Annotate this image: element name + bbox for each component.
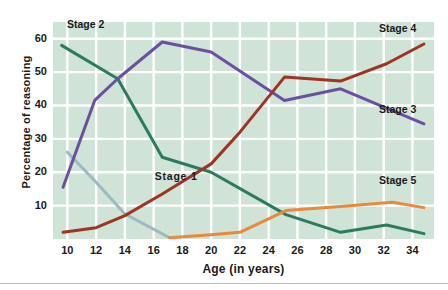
x-tick-label: 28 bbox=[314, 244, 338, 256]
x-tick-label: 24 bbox=[257, 244, 281, 256]
series-label-stage-4: Stage 4 bbox=[379, 22, 416, 34]
x-tick-label: 18 bbox=[170, 244, 194, 256]
series-label-stage-1: Stage 1 bbox=[155, 170, 198, 182]
x-tick-label: 22 bbox=[228, 244, 252, 256]
y-tick-label: 20 bbox=[25, 165, 47, 177]
y-tick-label: 10 bbox=[25, 199, 47, 211]
x-tick-label: 10 bbox=[55, 244, 79, 256]
series-label-stage-2: Stage 2 bbox=[67, 18, 104, 30]
y-tick-label: 50 bbox=[25, 65, 47, 77]
x-tick-label: 32 bbox=[372, 244, 396, 256]
series-label-stage-3: Stage 3 bbox=[379, 103, 416, 115]
x-tick-label: 16 bbox=[142, 244, 166, 256]
y-axis-title: Percentage of reasoning bbox=[20, 22, 32, 222]
x-tick-label: 14 bbox=[113, 244, 137, 256]
x-tick-label: 34 bbox=[400, 244, 424, 256]
x-tick-label: 30 bbox=[343, 244, 367, 256]
x-tick-label: 26 bbox=[285, 244, 309, 256]
x-tick-label: 12 bbox=[84, 244, 108, 256]
y-tick-label: 30 bbox=[25, 132, 47, 144]
x-tick-label: 20 bbox=[199, 244, 223, 256]
y-tick-label: 60 bbox=[25, 32, 47, 44]
x-axis-title: Age (in years) bbox=[53, 262, 434, 276]
figure-container: Percentage of reasoning Age (in years) 6… bbox=[0, 0, 448, 290]
y-tick-label: 40 bbox=[25, 98, 47, 110]
figure-bottom-rule bbox=[0, 283, 448, 284]
series-label-stage-5: Stage 5 bbox=[379, 174, 416, 186]
